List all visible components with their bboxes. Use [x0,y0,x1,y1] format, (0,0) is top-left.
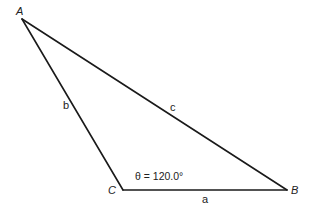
vertex-a-label: A [15,5,23,17]
vertex-b-label: B [291,184,298,196]
side-c-label: c [170,101,176,113]
triangle-diagram: A C B b c a θ = 120.0° [0,0,314,209]
side-b-label: b [63,99,69,111]
vertex-c-label: C [108,184,116,196]
side-c-line [22,19,287,190]
side-a-label: a [202,193,209,205]
angle-theta-label: θ = 120.0° [135,170,183,182]
side-b-line [22,19,123,190]
